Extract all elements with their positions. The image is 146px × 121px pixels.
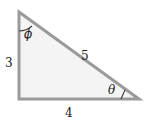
triangle-figure: 3 5 4 ϕ θ	[0, 0, 146, 121]
triangle-graphic	[0, 0, 146, 121]
side-label-vertical-leg: 3	[5, 57, 13, 69]
angle-label-theta: θ	[108, 84, 115, 96]
side-label-horizontal-leg: 4	[65, 107, 73, 119]
side-label-hypotenuse: 5	[81, 50, 89, 62]
triangle-outline	[19, 12, 139, 99]
angle-label-phi: ϕ	[24, 28, 32, 40]
